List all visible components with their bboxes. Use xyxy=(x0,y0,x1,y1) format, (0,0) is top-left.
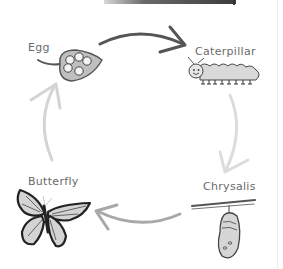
life-cycle-diagram: Egg Caterpillar Chrysalis Butterfly xyxy=(0,0,283,269)
stage-label-caterpillar: Caterpillar xyxy=(195,45,256,58)
arrow-caterpillar-to-chrysalis xyxy=(220,95,248,172)
arrow-chrysalis-to-butterfly xyxy=(96,205,180,229)
arrow-butterfly-to-egg xyxy=(31,84,60,160)
caterpillar-illustration xyxy=(188,57,259,84)
stage-label-chrysalis: Chrysalis xyxy=(203,180,256,193)
egg-leaf-illustration xyxy=(38,50,102,81)
arrow-egg-to-caterpillar xyxy=(100,27,185,52)
chrysalis-illustration xyxy=(192,200,255,258)
stage-label-butterfly: Butterfly xyxy=(28,175,79,188)
butterfly-illustration xyxy=(18,190,90,246)
stage-label-egg: Egg xyxy=(28,41,50,54)
